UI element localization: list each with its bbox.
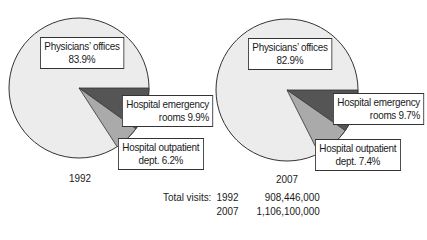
- label-value: 82.9%: [252, 54, 327, 67]
- label-physicians-1992: Physicians’ offices 83.9%: [40, 37, 124, 69]
- totals-year: 2007: [217, 205, 243, 219]
- label-er-1992: Hospital emergency rooms 9.9%: [122, 95, 213, 127]
- label-physicians-2007: Physicians’ offices 82.9%: [248, 38, 332, 70]
- totals-year: 1992: [217, 191, 243, 205]
- total-visits-table: Total visits: 1992 908,446,000 2007 1,10…: [146, 191, 320, 218]
- label-text: Physicians’ offices: [44, 40, 119, 53]
- label-text: Hospital emergency: [126, 98, 209, 111]
- year-label-1992: 1992: [69, 172, 91, 184]
- year-label-2007: 2007: [276, 173, 298, 185]
- totals-value: 908,446,000: [242, 191, 319, 205]
- totals-row: Total visits: 1992 908,446,000: [146, 191, 320, 205]
- label-outpatient-1992: Hospital outpatient dept. 6.2%: [118, 138, 204, 170]
- label-text: Hospital emergency: [337, 96, 420, 109]
- totals-value: 1,106,100,000: [242, 205, 319, 219]
- totals-label: Total visits:: [146, 191, 217, 205]
- label-value: rooms 9.7%: [337, 109, 420, 122]
- label-value: 83.9%: [44, 53, 119, 66]
- label-value: dept. 6.2%: [122, 154, 199, 167]
- label-outpatient-2007: Hospital outpatient dept. 7.4%: [315, 139, 401, 171]
- label-text: Physicians’ offices: [252, 41, 327, 54]
- totals-row: 2007 1,106,100,000: [146, 205, 320, 219]
- label-text: Hospital outpatient: [122, 141, 199, 154]
- label-text: Hospital outpatient: [319, 142, 396, 155]
- totals-label-spacer: [146, 205, 217, 219]
- label-value: dept. 7.4%: [319, 155, 396, 168]
- label-value: rooms 9.9%: [126, 111, 209, 124]
- label-er-2007: Hospital emergency rooms 9.7%: [333, 93, 424, 125]
